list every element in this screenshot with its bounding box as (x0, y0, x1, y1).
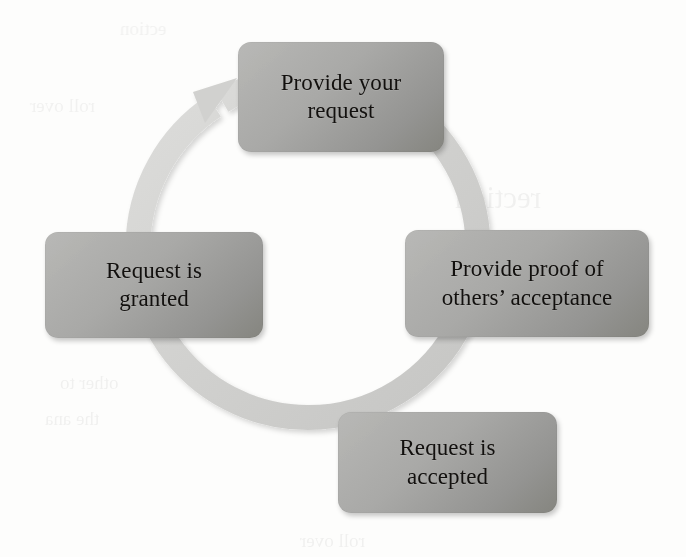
cycle-node-provide-request[interactable]: Provide your request (238, 42, 444, 152)
cycle-node-label-line: accepted (407, 464, 488, 489)
cycle-node-label-line: others’ acceptance (442, 285, 613, 310)
cycle-node-provide-proof[interactable]: Provide proof of others’ acceptance (405, 230, 649, 337)
ghost-text-line: roll over (30, 95, 95, 117)
cycle-node-label: Provide your request (281, 69, 402, 125)
cycle-node-label-line: Request is (399, 435, 495, 460)
cycle-node-label: Request is granted (106, 257, 202, 313)
cycle-node-request-granted[interactable]: Request is granted (45, 232, 263, 338)
cycle-node-request-accepted[interactable]: Request is accepted (338, 412, 557, 513)
ghost-text-line: ection (120, 18, 166, 40)
ghost-text-line: the ana (45, 408, 99, 430)
ghost-text-line: rection (455, 180, 541, 216)
arrowhead-icon (193, 78, 237, 123)
cycle-node-label-line: request (307, 98, 374, 123)
ghost-text-line: roll over (300, 530, 365, 552)
cycle-node-label-line: Provide proof of (450, 256, 604, 281)
cycle-node-label-line: Request is (106, 258, 202, 283)
ghost-text-line: other to (60, 372, 119, 394)
cycle-node-label-line: granted (119, 286, 189, 311)
cycle-node-label-line: Provide your (281, 70, 402, 95)
diagram-page: rection ection roll over other to the an… (0, 0, 686, 557)
cycle-node-label: Request is accepted (399, 434, 495, 490)
cycle-node-label: Provide proof of others’ acceptance (442, 255, 613, 311)
